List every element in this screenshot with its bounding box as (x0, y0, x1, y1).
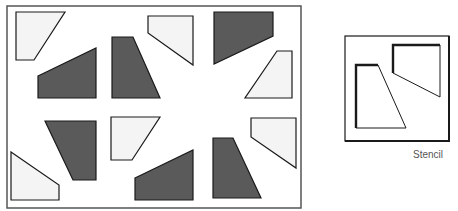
dark-polygon-shape (112, 37, 160, 98)
dark-polygon-shape (38, 48, 96, 98)
light-polygon-shape (245, 51, 292, 98)
light-polygon-shape (111, 117, 160, 160)
dark-polygon-shape (135, 150, 193, 200)
dark-polygon-shape (214, 12, 273, 64)
dark-polygon-shape (213, 138, 261, 198)
light-polygon-shape (16, 12, 65, 60)
stencil-label: Stencil (413, 149, 443, 160)
board-shapes (11, 12, 296, 200)
dark-polygon-shape (45, 121, 96, 180)
light-polygon-shape (148, 16, 193, 65)
diagram-canvas (0, 0, 458, 211)
light-polygon-shape (11, 152, 59, 200)
light-polygon-shape (251, 118, 296, 168)
